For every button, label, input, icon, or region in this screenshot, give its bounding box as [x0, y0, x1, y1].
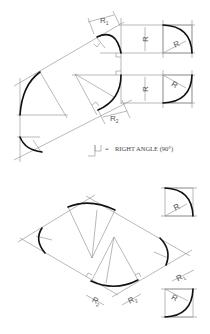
r-label-quarter-4: R — [170, 293, 180, 304]
legend-equals: = — [105, 145, 109, 152]
r2-label: R2 — [110, 114, 119, 124]
r-label-quarter-3: R — [172, 202, 182, 213]
right-angle-icon — [88, 145, 101, 156]
r2-label-right: R2 — [126, 294, 138, 307]
r1-label-bottom: R1 — [175, 271, 187, 284]
quarter-arc-top-right — [163, 25, 192, 53]
arc-r2-right — [98, 75, 121, 110]
arc-right — [160, 238, 168, 265]
legend-text: RIGHT ANGLE (90°) — [115, 145, 173, 153]
bottom-figure: R2 R2 R1 R R — [18, 188, 197, 317]
quarter-arc-bottom — [165, 289, 193, 317]
arc-small-left — [20, 137, 42, 152]
quarter-arc-top — [165, 188, 193, 216]
r-label-quarter-2: R — [170, 80, 180, 91]
top-figure: R1 R2 R R R R — [14, 11, 195, 162]
r1-label: R1 — [100, 16, 109, 26]
r-label-upper: R — [141, 36, 150, 42]
arc-bottom — [91, 280, 138, 286]
r-label-lower: R — [141, 86, 150, 92]
isometric-arc-construction-diagram: R1 R2 R R R R = R — [0, 0, 210, 334]
r2-label-left: R2 — [90, 295, 102, 308]
arc-large-left — [20, 72, 40, 115]
arc-r1-upper — [97, 35, 121, 53]
quarter-arc-bottom-right — [163, 75, 192, 103]
legend: = RIGHT ANGLE (90°) — [88, 145, 173, 156]
